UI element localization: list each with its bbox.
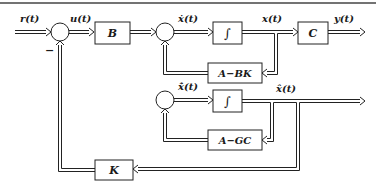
block-C-label: C xyxy=(309,27,318,40)
block-B-label: B xyxy=(107,27,117,40)
block-A-GC-label: A−GC xyxy=(218,135,252,146)
signal-xdot-line xyxy=(174,28,213,36)
summing-junction-3 xyxy=(156,91,174,109)
signal-y-line xyxy=(328,28,365,36)
signal-xhatdot-line xyxy=(174,96,213,104)
block-diagram: r(t) u(t) − ẋ(t) x(t) y(t) x̂̇(t) x̂(t) … xyxy=(0,0,376,193)
signal-K-feedback xyxy=(56,41,95,172)
block-A-BK-label: A−BK xyxy=(217,68,253,79)
label-y: y(t) xyxy=(333,13,354,24)
block-integrator-2-label: ∫ xyxy=(224,94,231,109)
label-xhatdot: x̂̇(t) xyxy=(177,81,198,92)
label-x: x(t) xyxy=(261,13,282,24)
label-xdot: ẋ(t) xyxy=(177,13,198,24)
signal-r-line xyxy=(15,28,51,36)
summing-junction-2 xyxy=(156,23,174,41)
summing-junction-1 xyxy=(51,23,69,41)
label-xhat: x̂(t) xyxy=(275,83,296,94)
signal-AGC-feedback xyxy=(161,109,208,142)
signal-ABK-feedback xyxy=(161,41,208,75)
label-u: u(t) xyxy=(70,13,92,24)
signal-Bu-line xyxy=(130,28,156,36)
label-minus: − xyxy=(45,44,54,57)
block-integrator-1-label: ∫ xyxy=(224,26,231,41)
signal-u-line xyxy=(69,28,94,36)
label-r: r(t) xyxy=(20,13,40,24)
block-K-label: K xyxy=(108,164,119,177)
